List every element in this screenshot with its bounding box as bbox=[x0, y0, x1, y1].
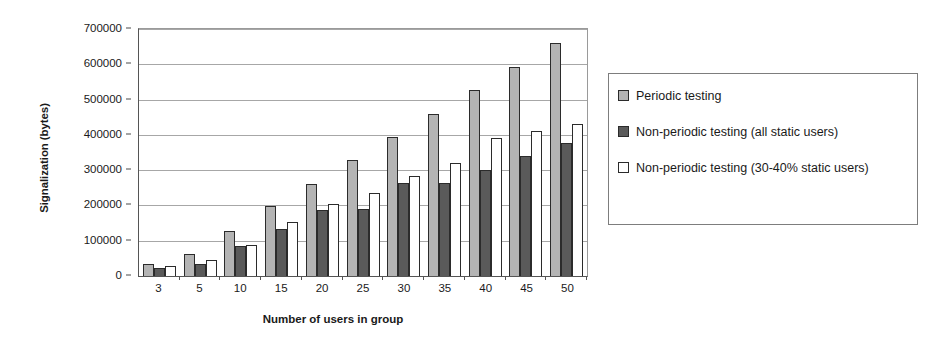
bar bbox=[246, 245, 257, 276]
y-axis-tick-label: 300000 bbox=[84, 163, 122, 175]
bar-group bbox=[506, 29, 547, 276]
x-axis-tick-label: 3 bbox=[138, 282, 179, 294]
bar-group bbox=[261, 29, 302, 276]
y-axis-tick-label: 400000 bbox=[84, 128, 122, 140]
bar-group bbox=[302, 29, 343, 276]
bar bbox=[369, 193, 380, 276]
bar bbox=[387, 137, 398, 276]
x-axis-tick-labels: 35101520253035404550 bbox=[138, 282, 588, 294]
bar bbox=[154, 268, 165, 276]
bar bbox=[450, 163, 461, 276]
bar bbox=[531, 131, 542, 276]
plot-area bbox=[138, 28, 588, 277]
y-axis-tick-label: 100000 bbox=[84, 234, 122, 246]
y-axis-tick-label: 200000 bbox=[84, 198, 122, 210]
x-axis-tick-label: 5 bbox=[179, 282, 220, 294]
legend-item: Non-periodic testing (all static users) bbox=[618, 124, 909, 140]
bar bbox=[265, 206, 276, 276]
bar bbox=[491, 138, 502, 276]
bar-group bbox=[424, 29, 465, 276]
bar bbox=[439, 183, 450, 276]
bar bbox=[224, 231, 235, 276]
x-axis-tick-label: 10 bbox=[220, 282, 261, 294]
y-axis-tick-mark bbox=[126, 133, 131, 134]
y-axis-tick-label: 0 bbox=[116, 269, 122, 281]
legend-item-label: Non-periodic testing (all static users) bbox=[636, 124, 838, 140]
bar bbox=[398, 183, 409, 276]
bar bbox=[428, 114, 439, 276]
legend-swatch-icon bbox=[618, 90, 629, 101]
y-axis-tick-label: 500000 bbox=[84, 93, 122, 105]
bar-group bbox=[180, 29, 221, 276]
bar-groups bbox=[139, 29, 587, 276]
x-axis-title: Number of users in group bbox=[138, 313, 528, 325]
x-axis-tick-label: 50 bbox=[547, 282, 588, 294]
y-axis-tick-label: 700000 bbox=[84, 22, 122, 34]
bar bbox=[328, 204, 339, 276]
bar bbox=[409, 176, 420, 276]
x-axis-tick-label: 20 bbox=[302, 282, 343, 294]
bar bbox=[165, 266, 176, 276]
bar bbox=[306, 184, 317, 276]
y-axis-tick-mark bbox=[126, 28, 131, 29]
legend-item: Periodic testing bbox=[618, 88, 909, 104]
y-axis-tick-label: 600000 bbox=[84, 57, 122, 69]
bar-group bbox=[465, 29, 506, 276]
bar bbox=[143, 264, 154, 276]
bar bbox=[480, 170, 491, 276]
y-axis-tick-labels: 0100000200000300000400000500000600000700… bbox=[60, 20, 132, 275]
legend-swatch-icon bbox=[618, 126, 629, 137]
bar-group bbox=[343, 29, 384, 276]
bar bbox=[287, 222, 298, 276]
bar bbox=[276, 229, 287, 276]
y-axis-tick-mark bbox=[126, 239, 131, 240]
bar bbox=[235, 246, 246, 276]
bar bbox=[469, 90, 480, 276]
bar bbox=[184, 254, 195, 276]
y-axis-tick-mark bbox=[126, 169, 131, 170]
y-axis-tick-mark bbox=[126, 275, 131, 276]
x-axis-tick-label: 45 bbox=[506, 282, 547, 294]
bar-group bbox=[139, 29, 180, 276]
x-axis-tick-label: 15 bbox=[261, 282, 302, 294]
legend-swatch-icon bbox=[618, 162, 629, 173]
bar bbox=[572, 124, 583, 276]
bar bbox=[520, 156, 531, 276]
x-axis-tick-label: 30 bbox=[383, 282, 424, 294]
y-axis-tick-mark bbox=[126, 63, 131, 64]
bar bbox=[317, 210, 328, 276]
bar bbox=[347, 160, 358, 276]
plot-wrapper: 0100000200000300000400000500000600000700… bbox=[60, 20, 600, 282]
x-axis-tick-label: 25 bbox=[343, 282, 384, 294]
legend-item: Non-periodic testing (30-40% static user… bbox=[618, 160, 909, 176]
y-axis-tick-mark bbox=[126, 98, 131, 99]
bar bbox=[358, 209, 369, 276]
bar-group bbox=[220, 29, 261, 276]
x-axis-tick-label: 35 bbox=[424, 282, 465, 294]
bar bbox=[561, 143, 572, 276]
bar-group bbox=[546, 29, 587, 276]
bar bbox=[550, 43, 561, 276]
legend-item-label: Periodic testing bbox=[636, 88, 721, 104]
y-axis-title: Signalization (bytes) bbox=[38, 48, 50, 268]
x-axis-tick-label: 40 bbox=[465, 282, 506, 294]
legend-item-label: Non-periodic testing (30-40% static user… bbox=[636, 160, 869, 176]
bar bbox=[206, 260, 217, 276]
chart-figure: Signalization (bytes) 010000020000030000… bbox=[0, 0, 943, 345]
bar bbox=[509, 67, 520, 276]
bar bbox=[195, 264, 206, 276]
bar-group bbox=[383, 29, 424, 276]
y-axis-tick-mark bbox=[126, 204, 131, 205]
legend: Periodic testingNon-periodic testing (al… bbox=[608, 73, 918, 225]
